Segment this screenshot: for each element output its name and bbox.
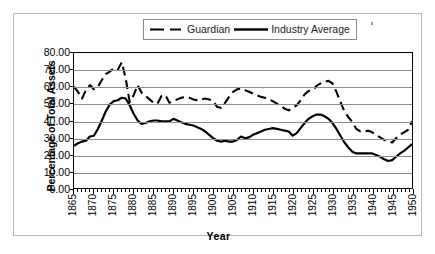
chart-frame: Guardian Industry Average Percentage of … [13, 13, 422, 236]
x-minor-tickmark [145, 189, 146, 192]
x-minor-tickmark [325, 189, 326, 192]
x-tick-label: 1930 [328, 194, 338, 216]
gridline [74, 122, 412, 123]
x-minor-tickmark [141, 189, 142, 192]
x-minor-tickmark [81, 189, 82, 192]
x-tick-label: 1890 [168, 194, 178, 216]
x-minor-tickmark [161, 189, 162, 192]
x-minor-tickmark [357, 189, 358, 192]
x-minor-tickmark [385, 189, 386, 192]
x-minor-tickmark [237, 189, 238, 192]
x-minor-tickmark [205, 189, 206, 192]
x-minor-tickmark [77, 189, 78, 192]
x-minor-tickmark [225, 189, 226, 192]
y-tick-label: 30.00 [24, 132, 70, 143]
x-minor-tickmark [201, 189, 202, 192]
x-minor-tickmark [129, 189, 130, 192]
x-minor-tickmark [257, 189, 258, 192]
x-axis-tick-labels: 1865187018751880188518901895190019051910… [73, 194, 413, 230]
x-minor-tickmark [361, 189, 362, 192]
x-minor-tickmark [297, 189, 298, 192]
x-tick-label: 1895 [188, 194, 198, 216]
gridline [74, 87, 412, 88]
plot-area [73, 52, 413, 189]
x-minor-tickmark [285, 189, 286, 192]
x-minor-tickmark [209, 189, 210, 192]
x-minor-tickmark [289, 189, 290, 192]
gridline [74, 173, 412, 174]
x-minor-tickmark [301, 189, 302, 192]
x-minor-tickmark [169, 189, 170, 192]
x-minor-tickmark [309, 189, 310, 192]
legend-label-industry-average: Industry Average [271, 24, 350, 35]
gridline [74, 156, 412, 157]
x-tick-label: 1875 [108, 194, 118, 216]
series-line-guardian [74, 62, 412, 142]
x-minor-tickmark [409, 189, 410, 192]
x-minor-tickmark [349, 189, 350, 192]
x-minor-tickmark [101, 189, 102, 192]
x-minor-tickmark [217, 189, 218, 192]
x-minor-tickmark [261, 189, 262, 192]
x-minor-tickmark [305, 189, 306, 192]
y-tick-label: 70.00 [24, 64, 70, 75]
x-minor-tickmark [381, 189, 382, 192]
x-tick-label: 1935 [348, 194, 358, 216]
x-minor-tickmark [221, 189, 222, 192]
x-tick-label: 1900 [208, 194, 218, 216]
x-minor-tickmark [369, 189, 370, 192]
x-tick-label: 1885 [148, 194, 158, 216]
y-tick-label: 10.00 [24, 167, 70, 178]
x-minor-tickmark [177, 189, 178, 192]
x-minor-tickmark [341, 189, 342, 192]
x-tick-label: 1950 [408, 194, 418, 216]
x-minor-tickmark [249, 189, 250, 192]
x-tick-label: 1920 [288, 194, 298, 216]
legend-entry-guardian[interactable]: Guardian [150, 24, 230, 35]
gridline [74, 70, 412, 71]
x-tick-label: 1940 [368, 194, 378, 216]
x-minor-tickmark [277, 189, 278, 192]
x-tick-label: 1905 [228, 194, 238, 216]
x-minor-tickmark [121, 189, 122, 192]
x-minor-tickmark [337, 189, 338, 192]
x-minor-tickmark [137, 189, 138, 192]
dashed-line-swatch [150, 24, 184, 35]
x-minor-tickmark [165, 189, 166, 192]
stray-speck [371, 22, 373, 25]
x-axis-title: Year [14, 230, 423, 242]
x-tick-label: 1925 [308, 194, 318, 216]
y-tick-label: 40.00 [24, 115, 70, 126]
y-tick-label: 50.00 [24, 98, 70, 109]
solid-line-swatch [234, 24, 268, 35]
x-minor-tickmark [269, 189, 270, 192]
x-minor-tickmark [105, 189, 106, 192]
x-minor-tickmark [89, 189, 90, 192]
x-minor-tickmark [197, 189, 198, 192]
x-minor-tickmark [329, 189, 330, 192]
x-minor-tickmark [245, 189, 246, 192]
x-tick-label: 1880 [128, 194, 138, 216]
x-tick-label: 1870 [88, 194, 98, 216]
series-line-industry-average [74, 98, 412, 161]
y-axis-ticks: 80.0070.0060.0050.0040.0030.0020.0010.00… [20, 52, 70, 189]
x-minor-tickmark [265, 189, 266, 192]
x-minor-tickmark [397, 189, 398, 192]
legend-label-guardian: Guardian [187, 24, 230, 35]
legend-entry-industry-average[interactable]: Industry Average [234, 24, 350, 35]
y-tick-label: 20.00 [24, 150, 70, 161]
y-tick-label: 0.00 [24, 184, 70, 195]
y-tick-label: 80.00 [24, 47, 70, 58]
x-minor-tickmark [185, 189, 186, 192]
chart-legend[interactable]: Guardian Industry Average [143, 19, 357, 40]
x-minor-tickmark [345, 189, 346, 192]
x-minor-tickmark [117, 189, 118, 192]
x-minor-tickmark [229, 189, 230, 192]
y-tick-label: 60.00 [24, 81, 70, 92]
x-minor-tickmark [317, 189, 318, 192]
x-minor-tickmark [401, 189, 402, 192]
x-minor-tickmark [181, 189, 182, 192]
series-layer [74, 53, 412, 188]
gridline [74, 139, 412, 140]
x-minor-tickmark [109, 189, 110, 192]
